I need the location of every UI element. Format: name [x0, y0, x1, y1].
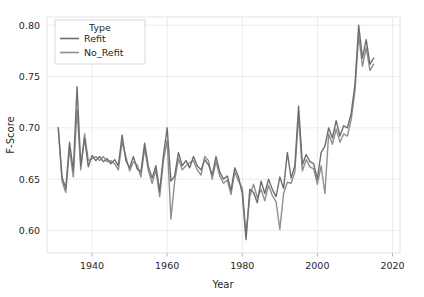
x-tick-label: 1960 — [155, 260, 179, 271]
legend-label-refit[interactable]: Refit — [84, 33, 106, 44]
x-tick-label: 2020 — [380, 260, 404, 271]
x-tick-label: 2000 — [305, 260, 329, 271]
y-axis-tick-labels: 0.600.650.700.750.80 — [19, 20, 40, 236]
line-chart: 0.600.650.700.750.80 1940196019802000202… — [0, 0, 424, 297]
legend-label-no_refit[interactable]: No_Refit — [84, 47, 124, 58]
legend-title: Type — [88, 22, 111, 33]
x-tick-label: 1940 — [80, 260, 104, 271]
chart-figure: 0.600.650.700.750.80 1940196019802000202… — [0, 0, 424, 297]
y-axis-title: F-Score — [5, 116, 16, 153]
y-tick-label: 0.65 — [19, 174, 40, 185]
x-tick-label: 1980 — [230, 260, 254, 271]
y-tick-label: 0.80 — [19, 20, 40, 31]
y-tick-label: 0.75 — [19, 71, 40, 82]
y-tick-label: 0.70 — [19, 122, 40, 133]
x-axis-tick-labels: 19401960198020002020 — [80, 253, 405, 271]
x-axis-title: Year — [211, 279, 234, 290]
legend[interactable]: Type RefitNo_Refit — [55, 20, 145, 64]
y-tick-label: 0.60 — [19, 225, 40, 236]
